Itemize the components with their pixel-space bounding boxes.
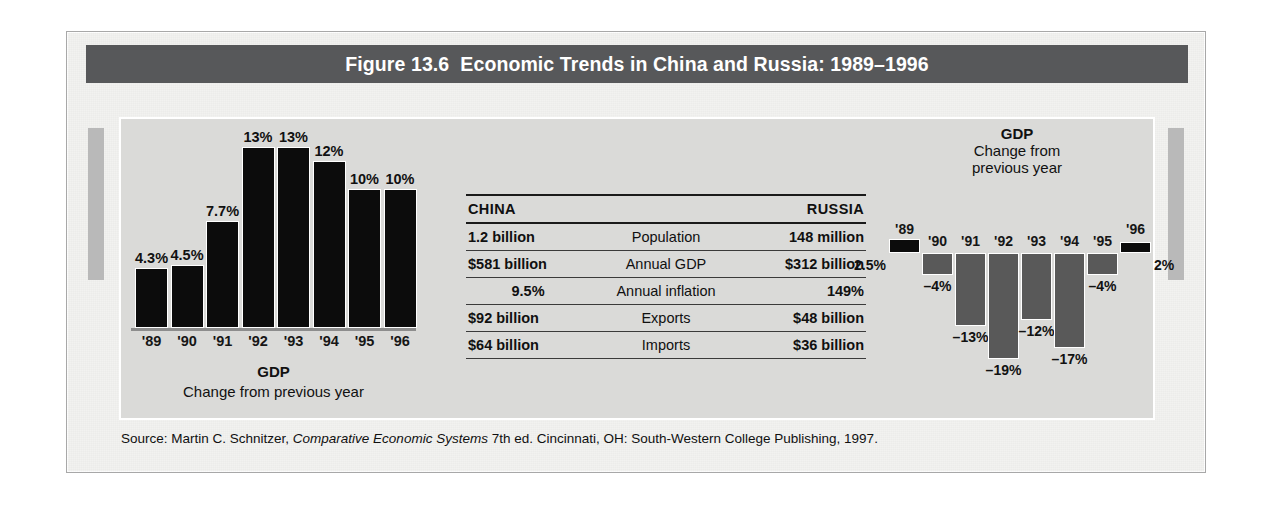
china-bar-column: 10% xyxy=(384,133,417,328)
russia-bar xyxy=(922,253,953,275)
china-chart-caption-main: GDP xyxy=(131,363,416,380)
table-row: 1.2 billionPopulation148 million xyxy=(466,223,866,251)
china-chart-baseline xyxy=(131,328,416,331)
table-cell-metric: Population xyxy=(590,223,742,251)
figure-frame: Figure 13.6 Economic Trends in China and… xyxy=(66,31,1206,473)
china-bar-value-label: 12% xyxy=(314,143,343,159)
russia-bar xyxy=(1021,253,1052,320)
table-header-china: CHINA xyxy=(466,195,590,223)
table-row: $64 billionImports$36 billion xyxy=(466,332,866,359)
figure-content-panel: 4.3%4.5%7.7%13%13%12%10%10% GDP Change f… xyxy=(119,117,1155,420)
russia-bar xyxy=(1120,242,1151,253)
russia-bar-value-label: 2% xyxy=(1154,257,1174,273)
table-cell-russia: $48 billion xyxy=(742,305,866,332)
russia-bar xyxy=(955,253,986,326)
china-bar-column: 4.3% xyxy=(135,133,168,328)
china-chart-plot-area: 4.3%4.5%7.7%13%13%12%10%10% xyxy=(131,133,431,328)
china-bar xyxy=(277,147,310,328)
russia-bar-year-label: '96 xyxy=(1126,221,1145,237)
figure-source-note: Source: Martin C. Schnitzer, Comparative… xyxy=(121,431,878,446)
russia-bar xyxy=(1087,253,1118,275)
table-header-row: CHINA RUSSIA xyxy=(466,195,866,223)
china-axis-tick-label: '94 xyxy=(313,333,346,349)
russia-bar-year-label: '91 xyxy=(961,233,980,249)
table-cell-metric: Imports xyxy=(590,332,742,359)
russia-bar-column: '892.5% xyxy=(889,221,920,411)
china-bar-value-label: 10% xyxy=(385,171,414,187)
table-cell-metric: Exports xyxy=(590,305,742,332)
china-axis-tick-label: '92 xyxy=(242,333,275,349)
china-bar-value-label: 4.5% xyxy=(170,247,203,263)
russia-bar-year-label: '92 xyxy=(994,233,1013,249)
china-axis-tick-label: '95 xyxy=(348,333,381,349)
table-header-metric xyxy=(590,195,742,223)
russia-bar-value-label: –13% xyxy=(953,329,989,345)
table-row: 9.5%Annual inflation149% xyxy=(466,278,866,305)
china-bar-column: 13% xyxy=(242,133,275,328)
russia-bar-value-label: –4% xyxy=(923,278,951,294)
source-suffix: 7th ed. Cincinnati, OH: South-Western Co… xyxy=(488,431,878,446)
table-cell-russia: 149% xyxy=(742,278,866,305)
russia-bar-value-label: –4% xyxy=(1088,278,1116,294)
comparison-table-element: CHINA RUSSIA 1.2 billionPopulation148 mi… xyxy=(466,194,866,359)
source-prefix: Source: Martin C. Schnitzer, xyxy=(121,431,293,446)
russia-bar xyxy=(889,239,920,253)
china-axis-tick-label: '96 xyxy=(384,333,417,349)
china-bar-value-label: 13% xyxy=(243,129,272,145)
figure-title-banner: Figure 13.6 Economic Trends in China and… xyxy=(86,45,1188,83)
china-axis-tick-label: '89 xyxy=(135,333,168,349)
table-cell-china: $64 billion xyxy=(466,332,590,359)
china-bar xyxy=(206,221,239,328)
table-cell-china: 9.5% xyxy=(466,278,590,305)
russia-chart-caption-sub-2: previous year xyxy=(881,159,1153,176)
russia-bar-column: '90–4% xyxy=(922,221,953,411)
china-gdp-chart: 4.3%4.5%7.7%13%13%12%10%10% GDP Change f… xyxy=(131,125,431,415)
russia-chart-caption: GDP Change from previous year xyxy=(881,125,1153,176)
table-cell-china: $581 billion xyxy=(466,251,590,278)
russia-chart-caption-sub-1: Change from xyxy=(881,142,1153,159)
china-axis-tick-label: '93 xyxy=(277,333,310,349)
china-bar xyxy=(384,189,417,328)
russia-bar-value-label: –19% xyxy=(986,362,1022,378)
table-row: $581 billionAnnual GDP$312 billion xyxy=(466,251,866,278)
china-bar-column: 7.7% xyxy=(206,133,239,328)
russia-bar-year-label: '89 xyxy=(895,221,914,237)
russia-chart-plot-area: '892.5%'90–4%'91–13%'92–19%'93–12%'94–17… xyxy=(881,221,1153,411)
russia-bar-value-label: –17% xyxy=(1052,351,1088,367)
china-bar-column: 10% xyxy=(348,133,381,328)
table-cell-china: 1.2 billion xyxy=(466,223,590,251)
table-cell-russia: 148 million xyxy=(742,223,866,251)
russia-bar-column: '95–4% xyxy=(1087,221,1118,411)
table-cell-russia: $36 billion xyxy=(742,332,866,359)
china-bar-value-label: 10% xyxy=(350,171,379,187)
china-bar-column: 13% xyxy=(277,133,310,328)
china-axis-tick-label: '91 xyxy=(206,333,239,349)
russia-bar-column: '92–19% xyxy=(988,221,1019,411)
russia-bar-column: '91–13% xyxy=(955,221,986,411)
table-cell-metric: Annual GDP xyxy=(590,251,742,278)
russia-bar-column: '962% xyxy=(1120,221,1151,411)
russia-bar-year-label: '93 xyxy=(1027,233,1046,249)
china-bar-value-label: 4.3% xyxy=(135,250,168,266)
china-bar-column: 4.5% xyxy=(171,133,204,328)
china-bar xyxy=(171,265,204,328)
russia-bar-value-label: 2.5% xyxy=(854,257,886,273)
china-chart-caption-sub: Change from previous year xyxy=(131,383,416,400)
russia-bar-year-label: '90 xyxy=(928,233,947,249)
china-bar-value-label: 13% xyxy=(279,129,308,145)
china-bar xyxy=(242,147,275,328)
russia-bar-year-label: '95 xyxy=(1093,233,1112,249)
figure-title: Figure 13.6 Economic Trends in China and… xyxy=(345,53,929,76)
table-row: $92 billionExports$48 billion xyxy=(466,305,866,332)
russia-bar-value-label: –12% xyxy=(1019,323,1055,339)
table-cell-russia: $312 billion xyxy=(742,251,866,278)
china-bar xyxy=(348,189,381,328)
russia-bar-column: '94–17% xyxy=(1054,221,1085,411)
china-bar-column: 12% xyxy=(313,133,346,328)
table-cell-china: $92 billion xyxy=(466,305,590,332)
russia-bar-column: '93–12% xyxy=(1021,221,1052,411)
comparison-table-body: 1.2 billionPopulation148 million$581 bil… xyxy=(466,223,866,359)
table-header-russia: RUSSIA xyxy=(742,195,866,223)
comparison-table-head: CHINA RUSSIA xyxy=(466,195,866,223)
russia-bar xyxy=(988,253,1019,359)
